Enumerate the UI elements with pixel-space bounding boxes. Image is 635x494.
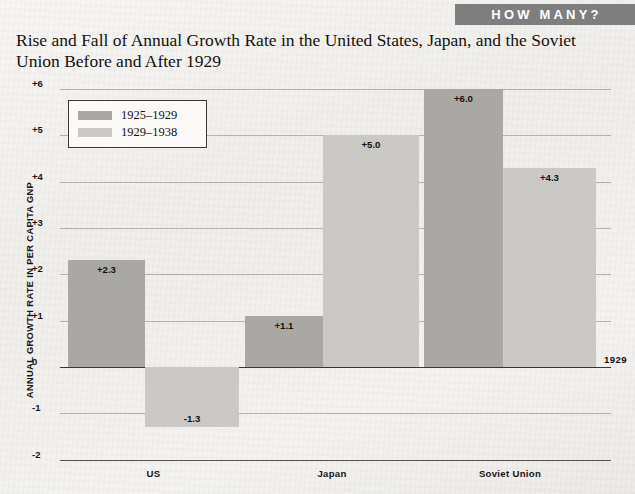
y-axis-title: ANNUAL GROWTH RATE IN PER CAPITA GNP	[25, 165, 35, 415]
bar-chart: ANNUAL GROWTH RATE IN PER CAPITA GNP +6+…	[0, 0, 635, 494]
y-tick-label--2: -2	[32, 449, 58, 460]
bar-soviet-union-1925-1929: +6.0	[424, 89, 503, 367]
category-label-soviet-union: Soviet Union	[424, 468, 596, 479]
category-label-us: US	[68, 468, 239, 479]
bar-value-label: +2.3	[68, 264, 145, 275]
bar-us-1929-1938: -1.3	[145, 367, 239, 427]
legend-label: 1925–1929	[121, 108, 177, 123]
y-tick-label-5: +5	[32, 124, 58, 135]
y-tick-label-6: +6	[32, 78, 58, 89]
zero-line-year-marker: 1929	[604, 354, 627, 365]
bar-value-label: +4.3	[503, 172, 596, 183]
bar-japan-1929-1938: +5.0	[323, 135, 419, 367]
gridline--2	[60, 460, 611, 461]
legend-item-1: 1925–1929	[78, 107, 206, 124]
legend-swatch	[78, 128, 112, 137]
gridline-6	[60, 89, 611, 90]
y-tick-label--1: -1	[32, 402, 58, 413]
bar-japan-1925-1929: +1.1	[245, 316, 323, 367]
gridline--1	[60, 413, 611, 414]
bar-value-label: -1.3	[145, 413, 239, 424]
y-tick-label-0: 0	[32, 356, 58, 367]
bar-value-label: +5.0	[323, 139, 419, 150]
y-tick-label-1: +1	[32, 310, 58, 321]
bar-value-label: +6.0	[424, 93, 503, 104]
gridline-0	[60, 367, 611, 368]
legend-label: 1929–1938	[121, 125, 177, 140]
bar-value-label: +1.1	[245, 320, 323, 331]
legend-item-2: 1929–1938	[78, 124, 206, 141]
bar-soviet-union-1929-1938: +4.3	[503, 168, 596, 367]
y-tick-label-2: +2	[32, 263, 58, 274]
category-label-japan: Japan	[245, 468, 419, 479]
legend-swatch	[78, 111, 112, 120]
y-tick-label-3: +3	[32, 217, 58, 228]
y-tick-label-4: +4	[32, 171, 58, 182]
legend: 1925–19291929–1938	[68, 100, 207, 148]
bar-us-1925-1929: +2.3	[68, 260, 145, 367]
